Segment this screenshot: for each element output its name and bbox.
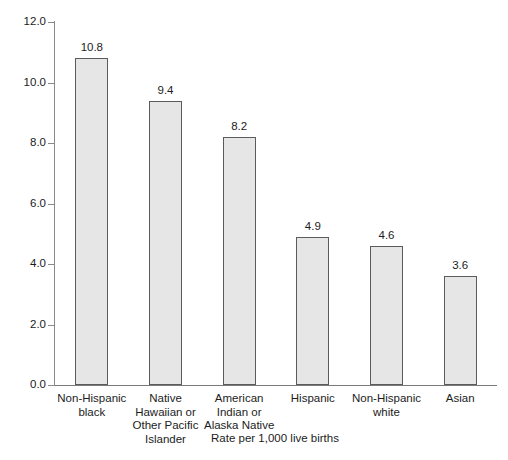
bar [149,101,182,385]
y-axis-tick-label: 12.0 [2,16,46,28]
bar [223,137,256,385]
bar-chart: 12.010.08.06.04.02.00.0 10.89.48.24.94.6… [0,0,508,460]
y-axis-tick [48,204,55,205]
bar-value-label: 4.9 [283,221,343,233]
y-axis-tick [48,325,55,326]
y-axis-tick-label: 4.0 [2,258,46,270]
bar-value-label: 4.6 [357,230,417,242]
y-axis-tick [48,83,55,84]
category-label: Asian [415,392,505,406]
y-axis-tick [48,385,55,386]
x-axis-title: Rate per 1,000 live births [0,432,508,444]
y-axis-tick [48,22,55,23]
bar-value-label: 10.8 [62,42,122,54]
y-axis-tick-label: 2.0 [2,319,46,331]
bar [444,276,477,385]
bar [370,246,403,385]
bar-value-label: 3.6 [430,260,490,272]
y-axis-tick-label: 6.0 [2,198,46,210]
bar-value-label: 8.2 [209,121,269,133]
bar [75,58,108,385]
bar-value-label: 9.4 [136,85,196,97]
y-axis-tick-label: 8.0 [2,137,46,149]
x-axis-line [55,385,497,386]
y-axis-tick-label: 0.0 [2,379,46,391]
y-axis-tick-label: 10.0 [2,77,46,89]
bar [296,237,329,385]
y-axis-tick [48,264,55,265]
y-axis-tick [48,143,55,144]
x-axis-title-text: Rate per 1,000 live births [211,432,339,444]
